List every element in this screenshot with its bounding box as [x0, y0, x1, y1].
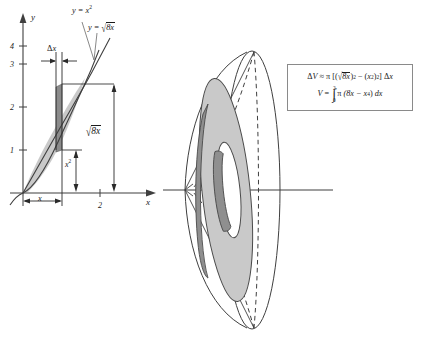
- y-tick-label-2: 2: [10, 103, 14, 112]
- axes: [10, 13, 156, 196]
- x-squared-measure: [74, 150, 79, 192]
- delta-v-pi: π: [326, 73, 330, 81]
- curve-label-upper-text: y = x: [72, 6, 89, 15]
- sqrt-8x-height-radicand: 8x: [91, 125, 101, 136]
- volume-integrand-open: (8x − x: [344, 90, 368, 98]
- solid-of-revolution: [163, 8, 333, 338]
- x-tick-label-2: 2: [98, 201, 102, 210]
- delta-v-relation: ≈: [320, 73, 325, 81]
- y-tick-label-3: 3: [9, 60, 14, 69]
- delta-v-var: V: [312, 73, 317, 81]
- curve-label-upper-exponent: 2: [89, 4, 92, 10]
- x-width-label: x: [38, 194, 42, 203]
- formula-box: ΔV ≈ π [(√8x)2 − (x2)2] Δx V = 2∫0π (8x …: [287, 64, 413, 111]
- x-squared-height-label: x2: [65, 160, 71, 169]
- y-tick-label-4: 4: [10, 42, 14, 51]
- y-tick-label-1: 1: [10, 146, 14, 155]
- volume-pi: π: [337, 90, 341, 98]
- curve-label-mid-prefix: y =: [88, 23, 102, 32]
- integral-sign: ∫: [333, 90, 336, 98]
- x-axis-label: x: [145, 197, 150, 207]
- formula-volume: V = 2∫0π (8x − x4) dx: [318, 86, 383, 103]
- region-between-curves-graph: 1 2 3 4 2 y x: [0, 0, 170, 215]
- x-width-label-text: x: [38, 194, 42, 203]
- delta-x-slice: [56, 84, 62, 152]
- delta-v-radicand: 8x: [342, 72, 351, 81]
- volume-equals: =: [325, 90, 330, 98]
- curve-label-y-equals-sqrt-8x: y = √8x: [88, 22, 115, 32]
- definite-integral: 2∫0: [332, 86, 336, 103]
- delta-v-close-bracket: ]: [379, 73, 382, 81]
- curve-label-mid-radicand: 8x: [106, 22, 115, 32]
- delta-v-dx-var: x: [389, 73, 393, 81]
- formula-delta-v: ΔV ≈ π [(√8x)2 − (x2)2] Δx: [307, 72, 393, 81]
- volume-lhs: V: [318, 90, 323, 98]
- sqrt-8x-height-label: √8x: [86, 125, 101, 136]
- sqrt8x-measure: [112, 84, 117, 192]
- figure-root: 1 2 3 4 2 y x: [0, 0, 427, 342]
- x-squared-height-exponent: 2: [69, 158, 72, 164]
- y-axis-label: y: [30, 12, 35, 22]
- volume-integrand-close: ): [370, 90, 373, 98]
- volume-differential: dx: [375, 90, 383, 98]
- delta-x-label-var: x: [52, 44, 56, 53]
- delta-v-minus: −: [358, 73, 363, 81]
- curve-label-y-equals-x-squared: y = x2: [72, 6, 92, 15]
- delta-x-label: Δx: [47, 44, 56, 53]
